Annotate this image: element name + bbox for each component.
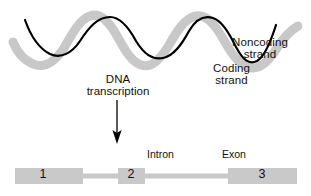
intron-segment	[83, 174, 120, 179]
coding-strand-label-line2: strand	[213, 74, 250, 86]
noncoding-strand-label-line2: strand	[232, 48, 288, 60]
dna-transcription-label-line2: transcription	[83, 85, 153, 97]
exon-number-2: 2	[122, 167, 140, 181]
exon-number-1: 1	[34, 167, 52, 181]
coding-strand-label: Coding strand	[213, 62, 250, 86]
exon-label: Exon	[222, 149, 246, 160]
dna-transcription-figure: Noncoding strand Coding strand DNA trans…	[0, 0, 311, 196]
coding-strand-label-line1: Coding	[213, 62, 250, 74]
intron-label: Intron	[147, 149, 174, 160]
exon-number-3: 3	[253, 167, 271, 181]
noncoding-strand-label-line1: Noncoding	[232, 36, 288, 48]
noncoding-strand-label: Noncoding strand	[232, 36, 288, 60]
dna-transcription-label: DNA transcription	[83, 73, 153, 97]
dna-transcription-label-line1: DNA	[106, 73, 130, 85]
intron-segment	[143, 174, 230, 179]
